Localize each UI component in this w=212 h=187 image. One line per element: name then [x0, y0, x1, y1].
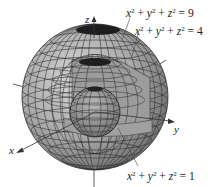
outer-sphere-equation: x2 + y2 + z2 = 9: [126, 8, 194, 20]
middle-sphere-equation: x2 + y2 + z2 = 4: [135, 26, 203, 38]
inner-sphere: [70, 87, 120, 138]
inner-sphere-equation: x2 + y2 + z2 = 1: [127, 171, 195, 183]
z-axis-label: z: [85, 14, 89, 25]
x-axis-label: x: [9, 145, 14, 156]
y-axis-label: y: [174, 124, 179, 135]
